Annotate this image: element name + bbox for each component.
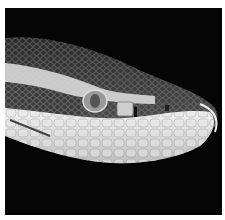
snake-photo: [5, 8, 222, 215]
snake-head-illustration: [5, 8, 222, 215]
